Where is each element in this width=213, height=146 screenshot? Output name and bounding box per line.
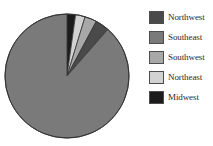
legend-item-label: Northwest bbox=[168, 12, 205, 22]
legend-item-label: Southwest bbox=[168, 52, 205, 62]
legend-swatch-icon bbox=[149, 31, 164, 44]
pie-plot-area bbox=[0, 0, 145, 146]
pie-chart-figure: Northwest Southeast Southwest Northeast … bbox=[0, 0, 213, 146]
legend-item-label: Northeast bbox=[168, 72, 202, 82]
legend-swatch-icon bbox=[149, 11, 164, 24]
legend-item: Southeast bbox=[149, 27, 213, 47]
chart-legend: Northwest Southeast Southwest Northeast … bbox=[149, 7, 213, 107]
legend-swatch-icon bbox=[149, 51, 164, 64]
legend-item: Northeast bbox=[149, 67, 213, 87]
legend-item: Midwest bbox=[149, 87, 213, 107]
legend-swatch-icon bbox=[149, 91, 164, 104]
pie-slice bbox=[5, 14, 129, 138]
legend-swatch-icon bbox=[149, 71, 164, 84]
legend-item-label: Southeast bbox=[168, 32, 202, 42]
legend-item: Northwest bbox=[149, 7, 213, 27]
pie-chart-svg bbox=[0, 0, 145, 146]
legend-item: Southwest bbox=[149, 47, 213, 67]
legend-item-label: Midwest bbox=[168, 92, 199, 102]
